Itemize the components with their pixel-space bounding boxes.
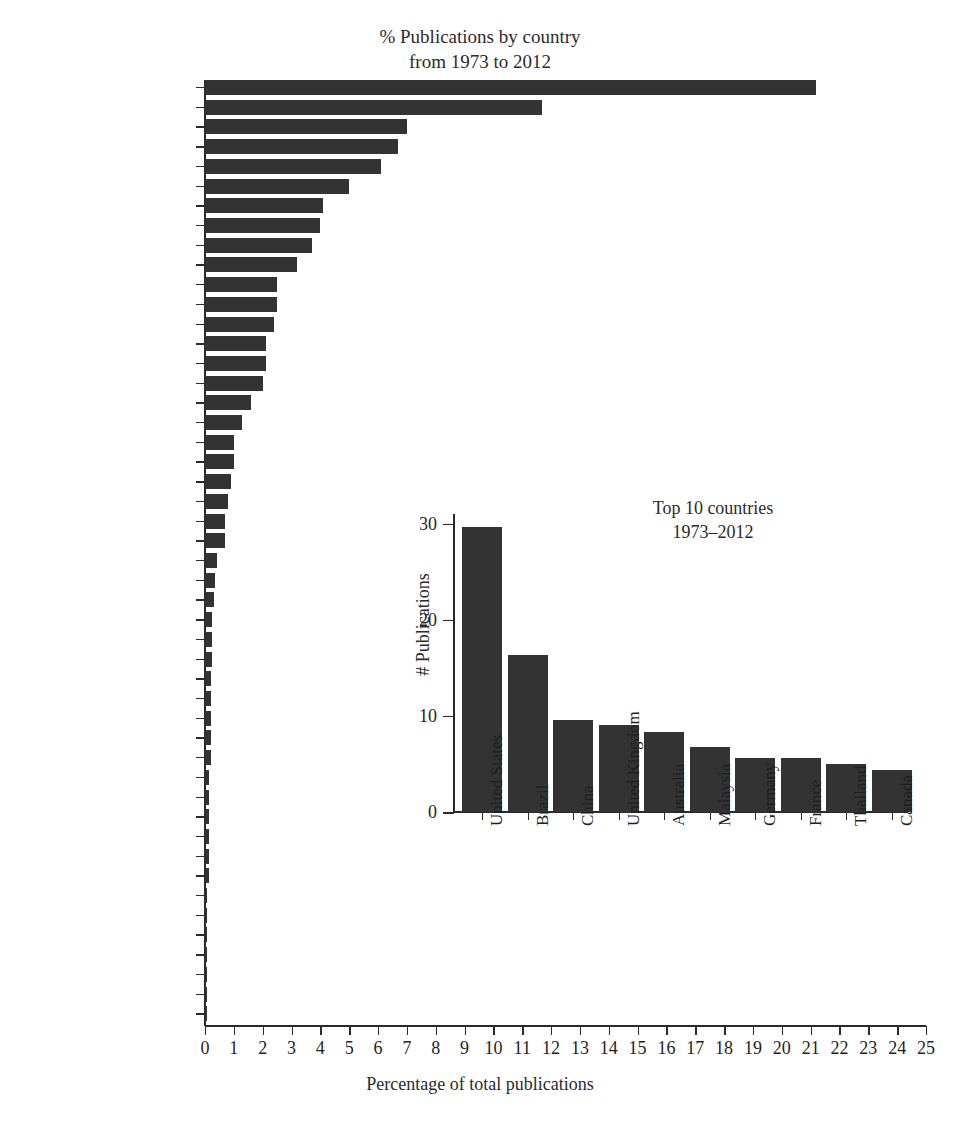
y-axis-tick xyxy=(196,718,205,719)
x-axis-tick xyxy=(551,1026,552,1035)
inset-x-axis-tick-label: Thailand xyxy=(852,766,869,826)
inset-x-axis-tick xyxy=(664,812,665,820)
y-axis-tick xyxy=(196,994,205,995)
inset-x-axis-tick-label: Brazil xyxy=(534,784,551,826)
y-axis-tick xyxy=(196,107,205,108)
inset-x-axis-tick-label: Canada xyxy=(898,775,915,826)
x-axis-tick xyxy=(839,1026,840,1035)
bar xyxy=(205,415,242,430)
y-axis-tick xyxy=(196,560,205,561)
y-axis-tick xyxy=(196,974,205,975)
y-axis-tick xyxy=(196,599,205,600)
bar xyxy=(205,868,209,883)
y-axis-tick xyxy=(196,954,205,955)
bar xyxy=(205,730,211,745)
inset-x-axis-tick xyxy=(892,812,893,820)
x-axis-tick xyxy=(320,1026,321,1035)
bar xyxy=(205,317,274,332)
x-axis-tick xyxy=(378,1026,379,1035)
inset-y-axis-tick-label: 20 xyxy=(401,611,437,629)
x-axis-tick xyxy=(609,1026,610,1035)
inset-x-axis-tick xyxy=(619,812,620,820)
bar xyxy=(205,218,320,233)
bar xyxy=(205,336,266,351)
y-axis-tick xyxy=(196,363,205,364)
inset-y-axis-tick xyxy=(443,524,454,526)
bar xyxy=(205,770,209,785)
inset-x-axis-tick-label: France xyxy=(807,780,824,826)
inset-x-axis-tick-label: China xyxy=(579,785,596,826)
x-axis-line xyxy=(205,1025,926,1027)
y-axis-tick xyxy=(196,402,205,403)
y-axis-tick xyxy=(196,1013,205,1014)
y-axis-tick xyxy=(196,816,205,817)
x-axis-tick xyxy=(926,1026,927,1035)
y-axis-tick xyxy=(196,501,205,502)
inset-y-axis-tick-label: 0 xyxy=(401,803,437,821)
x-axis-tick xyxy=(811,1026,812,1035)
bar xyxy=(205,652,212,667)
bar xyxy=(205,297,277,312)
inset-y-axis-line xyxy=(453,514,455,812)
x-axis-tick xyxy=(205,1026,206,1035)
y-axis-tick xyxy=(196,915,205,916)
bar xyxy=(205,533,225,548)
x-axis-tick xyxy=(782,1026,783,1035)
inset-x-axis-tick xyxy=(710,812,711,820)
x-axis-tick xyxy=(407,1026,408,1035)
bar xyxy=(205,454,234,469)
bar xyxy=(205,238,312,253)
x-axis-tick xyxy=(493,1026,494,1035)
bar xyxy=(205,888,207,903)
inset-x-axis-tick xyxy=(801,812,802,820)
bar xyxy=(205,553,217,568)
y-axis-tick xyxy=(196,797,205,798)
inset-x-axis-tick xyxy=(482,812,483,820)
y-axis-tick xyxy=(196,934,205,935)
y-axis-tick xyxy=(196,87,205,88)
y-axis-tick xyxy=(196,619,205,620)
bar xyxy=(205,435,234,450)
bar xyxy=(205,139,398,154)
inset-y-axis-tick xyxy=(443,620,454,622)
x-axis-tick xyxy=(436,1026,437,1035)
x-axis-tick xyxy=(868,1026,869,1035)
inset-x-axis-tick-label: Malaysia xyxy=(716,764,733,826)
inset-bar-chart: Top 10 countries 1973–2012 # Publication… xyxy=(398,492,918,1002)
y-axis-tick xyxy=(196,895,205,896)
bar xyxy=(205,474,231,489)
x-axis-tick xyxy=(638,1026,639,1035)
bar xyxy=(205,356,266,371)
y-axis-tick xyxy=(196,875,205,876)
inset-x-axis-tick-label: United Kingdom xyxy=(625,711,642,826)
y-axis-tick xyxy=(196,284,205,285)
x-axis-tick xyxy=(522,1026,523,1035)
bar xyxy=(205,987,207,1002)
bar xyxy=(205,198,323,213)
bar xyxy=(205,711,211,726)
inset-y-axis-tick-label: 10 xyxy=(401,707,437,725)
bar xyxy=(205,395,251,410)
y-axis-tick xyxy=(196,580,205,581)
x-axis-tick xyxy=(897,1026,898,1035)
y-axis-tick xyxy=(196,540,205,541)
bar xyxy=(205,494,228,509)
y-axis-tick xyxy=(196,126,205,127)
inset-x-axis-tick-label: Germany xyxy=(761,763,778,826)
x-axis-tick xyxy=(349,1026,350,1035)
y-axis-tick xyxy=(196,856,205,857)
y-axis-tick xyxy=(196,245,205,246)
bar xyxy=(205,376,263,391)
x-axis-tick-label: 25 xyxy=(906,1037,946,1059)
bar xyxy=(205,809,209,824)
x-axis-tick xyxy=(666,1026,667,1035)
bar xyxy=(205,632,212,647)
inset-x-axis-tick xyxy=(846,812,847,820)
y-axis-tick xyxy=(196,737,205,738)
y-axis-tick xyxy=(196,461,205,462)
bar xyxy=(205,119,407,134)
bar xyxy=(205,592,214,607)
bar xyxy=(205,947,207,962)
bar xyxy=(205,1006,207,1021)
bar xyxy=(205,691,211,706)
